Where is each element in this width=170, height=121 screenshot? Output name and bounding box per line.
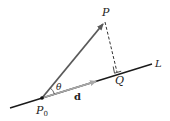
angle-arc (50, 88, 54, 94)
right-angle-marker (113, 67, 121, 74)
label-q: Q (115, 74, 124, 87)
diagram-canvas: P P0 Q L d θ (0, 0, 170, 121)
label-vector-d: d (74, 91, 81, 102)
vector-p0-p (42, 24, 103, 98)
label-theta: θ (56, 82, 62, 92)
label-line-l: L (154, 58, 162, 69)
point-p0 (40, 96, 44, 100)
label-p0: P0 (35, 104, 48, 118)
label-p: P (101, 6, 110, 19)
vector-d (42, 81, 96, 98)
perpendicular-pq (105, 22, 117, 72)
